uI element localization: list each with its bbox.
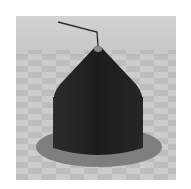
render-viewport <box>16 16 176 180</box>
cylinder-body <box>53 97 143 155</box>
apex-cap <box>94 46 102 52</box>
scene-canvas <box>16 16 176 180</box>
